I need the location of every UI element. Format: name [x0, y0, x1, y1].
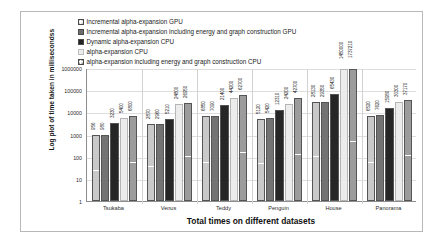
bar-value-label: 1737210: [348, 41, 353, 58]
group-separator: [252, 69, 253, 204]
legend-swatch-icon-1: [78, 29, 84, 35]
legend-item-4: alpha-expansion including energy and gra…: [78, 57, 418, 67]
bar[interactable]: [211, 116, 219, 201]
bar-wrap: 42700: [294, 69, 302, 201]
bar-value-label: 42700: [293, 81, 298, 93]
bar-group: 28130293506543014500001737210: [307, 69, 362, 201]
bar-group: 65207620159803030037170: [362, 69, 417, 201]
bar[interactable]: [92, 135, 100, 201]
bar-value-label: 24800: [174, 86, 179, 98]
bar-wrap: 5420: [266, 69, 274, 201]
bar-wrap: 5400: [120, 69, 128, 201]
bar-value-label: 37170: [403, 82, 408, 94]
bar-value-label: 6800: [128, 101, 133, 111]
bar[interactable]: [275, 110, 283, 201]
bar-value-label: 5120: [256, 104, 261, 114]
x-tick-label: Tsukaba: [86, 205, 141, 211]
bar-wrap: 956: [92, 69, 100, 201]
bar-value-label: 2870: [146, 110, 151, 120]
bar[interactable]: [385, 108, 393, 201]
x-tick-label: Venus: [141, 205, 196, 211]
bar[interactable]: [330, 94, 338, 201]
bar[interactable]: [110, 123, 118, 201]
x-tick-label: Teddy: [196, 205, 251, 211]
bar-value-label: 1450000: [339, 42, 344, 59]
bar[interactable]: [312, 102, 320, 201]
group-separator: [197, 69, 198, 204]
bar-value-label: 5210: [165, 104, 170, 114]
bar-value-label: 6520: [366, 102, 371, 112]
legend-label-1: Incremental alpha-expansion including en…: [87, 27, 297, 36]
bar[interactable]: [156, 124, 164, 201]
bar[interactable]: [129, 116, 137, 201]
legend-label-4: alpha-expansion including energy and gra…: [87, 57, 262, 66]
bar-wrap: 44200: [230, 69, 238, 201]
legend-item-0: Incremental alpha-expansion GPU: [78, 17, 418, 27]
bar-value-label: 7620: [375, 100, 380, 110]
y-tick-label: 1: [79, 199, 82, 205]
bar[interactable]: [294, 98, 302, 201]
bar[interactable]: [202, 116, 210, 201]
legend-swatch-icon-4: [78, 59, 84, 65]
bar-value-label: 44200: [229, 81, 234, 93]
bar-value-label: 5400: [119, 103, 124, 113]
group-separator: [307, 69, 308, 204]
bar[interactable]: [239, 95, 247, 201]
plot-outer: Log plot of time taken in millisecondss …: [34, 69, 416, 202]
bar-wrap: 37170: [404, 69, 412, 201]
bar[interactable]: [266, 118, 274, 201]
bar-wrap: 30300: [395, 69, 403, 201]
bar[interactable]: [321, 102, 329, 201]
y-tick-label: 100: [73, 155, 82, 161]
bar-value-label: 5420: [265, 103, 270, 113]
bar-value-label: 62700: [238, 77, 243, 89]
bar-wrap: 65430: [330, 69, 338, 201]
bar-value-label: 15980: [385, 91, 390, 103]
x-tick-label: Penguin: [251, 205, 306, 211]
bar-wrap: 5210: [165, 69, 173, 201]
bar-value-label: 3230: [110, 108, 115, 118]
bar-value-label: 2960: [155, 109, 160, 119]
bar-wrap: 1450000: [340, 69, 348, 201]
bar[interactable]: [120, 118, 128, 201]
bar-value-label: 30300: [394, 84, 399, 96]
bar-wrap: 5120: [257, 69, 265, 201]
bar-wrap: 28130: [312, 69, 320, 201]
bar[interactable]: [340, 69, 348, 201]
bar-value-label: 28130: [311, 85, 316, 97]
bar-wrap: 29350: [321, 69, 329, 201]
bar[interactable]: [165, 119, 173, 201]
y-tick-label: 100000: [64, 88, 82, 94]
legend-swatch-icon-2: [78, 39, 84, 45]
bar[interactable]: [101, 135, 109, 201]
bar[interactable]: [367, 116, 375, 201]
bar-wrap: 26950: [184, 69, 192, 201]
bar-value-label: 12310: [275, 93, 280, 105]
bar-group: 2870296052102480026950: [142, 69, 197, 201]
bar-wrap: 24800: [175, 69, 183, 201]
bar[interactable]: [147, 124, 155, 201]
chart-container: Incremental alpha-expansion GPU Incremen…: [20, 11, 423, 232]
bar[interactable]: [175, 104, 183, 201]
bar[interactable]: [404, 100, 412, 201]
bar-wrap: 12310: [275, 69, 283, 201]
y-tick-label: 10: [76, 177, 82, 183]
bar[interactable]: [230, 98, 238, 201]
bar-wrap: 21400: [220, 69, 228, 201]
bar-value-label: 65430: [330, 77, 335, 89]
bar-wrap: 6520: [367, 69, 375, 201]
bar-value-label: 24200: [284, 87, 289, 99]
bar[interactable]: [395, 102, 403, 201]
bar-wrap: 7090: [211, 69, 219, 201]
x-tick-label: Panorama: [361, 205, 416, 211]
bar-value-label: 980: [100, 122, 105, 129]
y-tick-label: 1000: [70, 133, 82, 139]
bar[interactable]: [349, 69, 357, 201]
bar-wrap: 2870: [147, 69, 155, 201]
bar[interactable]: [257, 119, 265, 201]
bar[interactable]: [184, 103, 192, 201]
bar[interactable]: [285, 104, 293, 201]
legend-swatch-icon-3: [78, 49, 84, 55]
bar[interactable]: [376, 115, 384, 201]
bar[interactable]: [220, 105, 228, 201]
